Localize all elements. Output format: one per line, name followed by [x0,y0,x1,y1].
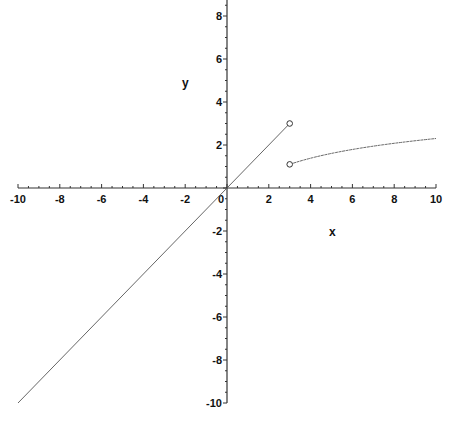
x-tick-label: -8 [55,193,65,205]
line-series-2 [290,138,436,164]
x-tick-label: -10 [10,193,26,205]
chart-plot: -10-8-6-4-20246810-10-8-6-4-22468 x y [0,0,454,438]
y-tick-label: -10 [206,397,222,409]
open-circle-marker [287,162,293,168]
x-tick-label: 8 [391,193,397,205]
open-circle-markers [287,121,293,167]
y-tick-label: -6 [212,311,222,323]
x-tick-label: 4 [308,193,315,205]
y-tick-label: 8 [216,10,222,22]
x-tick-label: -6 [97,193,107,205]
y-tick-label: -8 [212,354,222,366]
x-tick-label: -2 [180,193,190,205]
y-tick-label: 6 [216,53,222,65]
open-circle-marker [287,121,293,127]
x-tick-label: 2 [266,193,272,205]
y-tick-label: 2 [216,139,222,151]
y-tick-label: -4 [212,268,223,280]
x-tick-label: 6 [349,193,355,205]
line-series-1 [18,124,290,404]
x-tick-label: 10 [430,193,442,205]
y-tick-label: 4 [216,96,223,108]
x-axis-label: x [329,225,336,239]
x-tick-label: -4 [139,193,150,205]
y-tick-label: -2 [212,225,222,237]
axes [18,0,436,403]
y-axis-label: y [182,76,189,90]
